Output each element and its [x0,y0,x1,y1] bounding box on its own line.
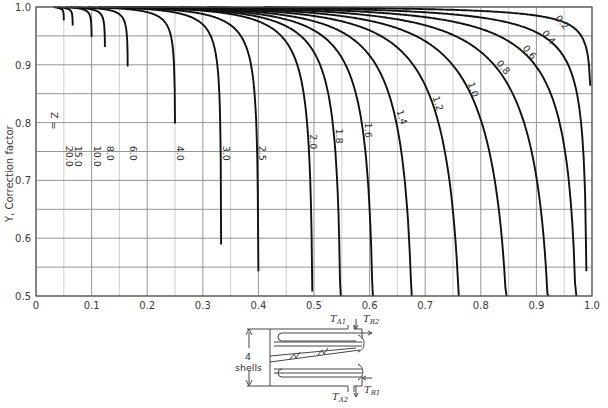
x-tick-label: 0.7 [417,300,433,311]
curve-z-10-0 [65,7,92,37]
temp-label-ta2: TA2 [332,391,349,404]
curve-label: 8.0 [105,146,116,161]
x-tick-label: 0.5 [306,300,322,311]
y-axis-label: Y, Correction factor [4,124,15,223]
x-tick-label: 1.0 [584,300,600,311]
shells-count: 4 [245,351,251,362]
y-tick-label: 0.7 [15,175,31,186]
y-tick-label: 0.5 [15,291,31,302]
x-tick-label: 0.8 [473,300,489,311]
curve-label: 1.8 [334,128,345,143]
x-tick-label: 0.1 [84,300,100,311]
curve-label: 15.0 [73,146,84,167]
x-tick-label: 0.3 [195,300,211,311]
curve-label: 2.0 [308,134,319,149]
four-shell-exchanger-diagram: 4 shells TA1 TB2 TA2 TB1 [235,313,380,404]
curve-z-15-0 [58,7,73,26]
curve-label: 4.0 [175,146,186,161]
y-axis-ticks: 0.50.60.70.80.91.0 [15,2,31,302]
curve-z-2-0 [115,7,313,291]
curve-z-20-0 [54,7,64,20]
x-tick-label: 0.4 [250,300,266,311]
correction-factor-chart: 20.015.010.08.06.04.03.02.52.01.81.61.41… [0,0,608,408]
x-axis-ticks: 00.10.20.30.40.50.60.70.80.91.0 [33,300,600,311]
y-tick-label: 1.0 [15,2,31,13]
curve-label: 10.0 [92,146,103,167]
x-tick-label: 0.2 [139,300,155,311]
temp-label-ta1: TA1 [330,313,346,326]
curve-label: 3.0 [221,146,232,161]
y-tick-label: 0.8 [15,118,31,129]
curve-label: 2.5 [257,146,268,161]
x-tick-label: 0.9 [528,300,544,311]
curve-label: 1.0 [466,81,481,99]
curve-label: 0.8 [494,58,512,77]
temp-label-tb2: TB2 [363,313,380,326]
curve-label: 6.0 [128,146,139,161]
y-tick-label: 0.6 [15,233,31,244]
curve-label: 1.6 [363,123,374,138]
shells-label: shells [235,362,262,373]
curve-label: 0.4 [540,28,558,47]
y-tick-label: 0.9 [15,60,31,71]
z-prefix-label: Z = [49,112,60,130]
x-tick-label: 0 [33,300,39,311]
curve-label: 0.2 [553,13,571,32]
temp-label-tb1: TB1 [364,384,380,397]
curve-z-4-0 [88,7,175,124]
grid [36,7,592,296]
curve-label: 1.2 [431,94,446,112]
x-tick-label: 0.6 [362,300,378,311]
curve-z-8-0 [70,7,105,47]
